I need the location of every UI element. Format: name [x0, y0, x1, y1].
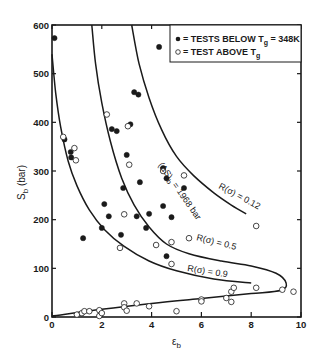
data-point-below-tg — [161, 203, 166, 208]
data-point-below-tg — [81, 236, 86, 241]
data-point-above-tg — [104, 112, 110, 118]
data-point-below-tg — [109, 127, 114, 132]
data-point-above-tg — [153, 242, 159, 248]
x-tick-label: 4 — [149, 319, 155, 330]
data-point-above-tg — [72, 145, 78, 151]
x-axis-label: εb — [172, 336, 181, 350]
data-point-above-tg — [224, 295, 230, 301]
data-points — [52, 36, 296, 319]
legend-open-marker-icon — [176, 50, 181, 55]
data-point-above-tg — [146, 304, 152, 310]
data-point-above-tg — [231, 285, 237, 291]
y-tick-label: 200 — [33, 214, 49, 225]
curve-label-r012: R(σ) = 0.12 — [217, 181, 262, 211]
data-point-above-tg — [121, 212, 127, 218]
data-point-above-tg — [199, 299, 205, 305]
data-point-above-tg — [73, 158, 79, 164]
data-point-above-tg — [60, 134, 66, 140]
data-point-below-tg — [52, 36, 57, 41]
x-axis: 0246810 — [49, 25, 306, 330]
data-point-above-tg — [291, 289, 297, 295]
data-point-above-tg — [126, 162, 132, 168]
legend: = TESTS BELOW Tg = 348K = TEST ABOVE Tg — [170, 25, 301, 62]
data-point-below-tg — [137, 180, 142, 185]
data-point-above-tg — [99, 310, 105, 316]
data-point-below-tg — [144, 225, 149, 230]
data-point-above-tg — [186, 235, 192, 241]
data-point-above-tg — [169, 261, 175, 267]
data-point-above-tg — [169, 239, 175, 245]
data-point-below-tg — [118, 232, 123, 237]
x-tick-label: 2 — [99, 319, 104, 330]
data-point-below-tg — [164, 254, 169, 259]
curve-label-delta-s: (ΔS)b = 1968 bar — [155, 160, 204, 222]
curve-label-r09: R(σ) = 0.9 — [187, 263, 229, 279]
x-tick-label: 0 — [49, 319, 54, 330]
data-point-above-tg — [125, 123, 131, 129]
data-point-below-tg — [121, 185, 126, 190]
chart: 0100200300400500600 0246810 (ΔS)b = 1968… — [0, 0, 320, 350]
model-curve — [52, 54, 251, 283]
data-point-below-tg — [99, 225, 104, 230]
x-tick-label: 6 — [199, 319, 204, 330]
y-tick-label: 500 — [33, 68, 49, 79]
data-point-above-tg — [253, 223, 259, 229]
data-point-above-tg — [280, 287, 286, 293]
data-point-below-tg — [136, 92, 141, 97]
data-point-below-tg — [147, 211, 152, 216]
data-point-below-tg — [134, 214, 139, 219]
data-point-above-tg — [124, 308, 130, 314]
data-point-below-tg — [114, 129, 119, 134]
y-axis-label: Sb (bar) — [16, 165, 30, 200]
data-point-above-tg — [253, 285, 259, 291]
data-point-above-tg — [229, 299, 235, 305]
data-point-below-tg — [157, 44, 162, 49]
data-point-above-tg — [181, 173, 187, 179]
data-point-above-tg — [174, 308, 180, 314]
y-tick-label: 0 — [44, 312, 49, 323]
data-point-below-tg — [169, 215, 174, 220]
plot-frame — [52, 25, 301, 317]
x-tick-label: 8 — [249, 319, 254, 330]
data-point-above-tg — [134, 301, 140, 307]
y-tick-label: 300 — [33, 166, 49, 177]
y-tick-label: 400 — [33, 117, 49, 128]
x-tick-label: 10 — [296, 319, 307, 330]
data-point-below-tg — [106, 214, 111, 219]
y-tick-label: 600 — [33, 20, 49, 31]
data-point-above-tg — [87, 308, 93, 314]
curve-label-r05: R(σ) = 0.5 — [196, 232, 238, 252]
data-point-below-tg — [124, 152, 129, 157]
y-tick-label: 100 — [33, 263, 49, 274]
data-point-below-tg — [102, 202, 107, 207]
legend-filled-marker-icon — [176, 37, 181, 42]
data-point-above-tg — [117, 245, 123, 251]
